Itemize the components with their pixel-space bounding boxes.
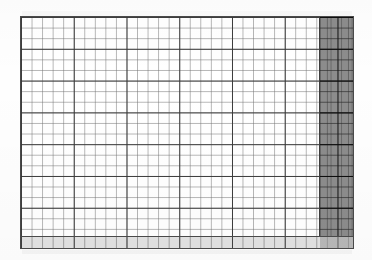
footer-row-strip[interactable]: [21, 236, 353, 248]
grid-major-lines: [21, 17, 353, 248]
shaded-block-major-lines: [320, 17, 353, 248]
scan-artifact-bottom: [22, 250, 352, 254]
scanned-sheet-canvas: [0, 0, 372, 260]
footer-shaded-segment: [320, 237, 353, 248]
spreadsheet-grid[interactable]: [20, 16, 354, 249]
shaded-column-block[interactable]: [320, 17, 353, 248]
footer-major-lines: [21, 237, 353, 248]
